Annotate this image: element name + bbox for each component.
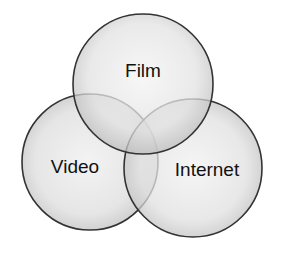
set-circle-film <box>73 14 213 154</box>
set-label-internet: Internet <box>175 159 240 180</box>
venn-diagram: Film Video Internet <box>0 0 283 253</box>
set-label-film: Film <box>125 60 161 81</box>
set-label-video: Video <box>51 156 99 177</box>
